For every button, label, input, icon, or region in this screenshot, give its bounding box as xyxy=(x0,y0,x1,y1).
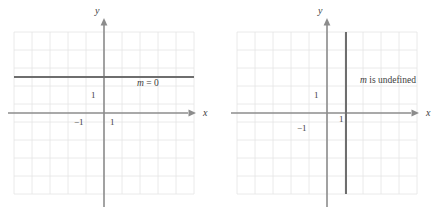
axes xyxy=(8,24,188,207)
x-axis-tick-negative-one: −1 xyxy=(297,124,307,133)
slope-variable-m: m xyxy=(137,78,144,88)
x-axis-tick-negative-one: −1 xyxy=(74,118,84,127)
x-axis-tick-one: 1 xyxy=(110,118,115,127)
panel-vertical-line: y x 1 −1 1 m is undefined xyxy=(217,0,434,212)
x-axis-arrow xyxy=(189,110,197,117)
y-axis-tick-one: 1 xyxy=(314,91,319,100)
slope-annotation-undefined: m is undefined xyxy=(360,76,416,86)
two-panel-slope-figure: y x 1 −1 1 m = 0 xyxy=(0,0,434,212)
slope-annotation-zero: m = 0 xyxy=(137,79,159,89)
y-axis-label: y xyxy=(95,6,99,16)
axes xyxy=(231,24,411,207)
x-axis-arrow xyxy=(412,110,420,117)
x-axis-tick-one: 1 xyxy=(339,115,344,124)
y-axis-arrow xyxy=(324,18,331,26)
x-axis-label: x xyxy=(203,108,207,118)
slope-annotation-rest: is undefined xyxy=(367,75,416,85)
x-axis-label: x xyxy=(426,108,430,118)
slope-variable-m: m xyxy=(360,75,367,85)
y-axis-label: y xyxy=(318,6,322,16)
slope-annotation-rest: = 0 xyxy=(144,78,159,88)
y-axis-arrow xyxy=(101,18,108,26)
panel-horizontal-line: y x 1 −1 1 m = 0 xyxy=(0,0,217,212)
y-axis-tick-one: 1 xyxy=(91,91,96,100)
